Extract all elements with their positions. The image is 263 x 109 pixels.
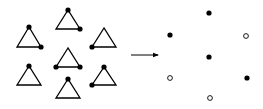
triangle-outline	[92, 28, 116, 47]
triangle-outline	[17, 66, 41, 85]
vertex-dot-apex	[65, 7, 70, 12]
triangle-t5	[17, 63, 41, 85]
triangle-t1	[17, 24, 44, 49]
vertex-dot-right	[77, 26, 82, 31]
vertex-dot-apex	[101, 64, 106, 69]
vertex-dot-left	[53, 64, 58, 69]
vertex-dot-apex	[65, 76, 70, 81]
triangle-t2	[56, 7, 83, 31]
filled-node-n1	[167, 32, 172, 37]
triangles-to-nodes-diagram	[0, 0, 263, 109]
triangle-t4	[53, 48, 82, 70]
filled-node-n2	[206, 10, 211, 15]
diagram-canvas	[0, 0, 263, 109]
triangle-t3	[89, 28, 116, 50]
filled-node-n4	[206, 54, 211, 59]
triangle-t6	[56, 76, 80, 98]
open-node-n5	[168, 76, 173, 81]
triangles-group	[17, 7, 116, 98]
triangle-outline	[17, 27, 41, 47]
triangle-outline	[56, 48, 80, 67]
open-node-n6	[208, 96, 213, 101]
triangle-outline	[56, 10, 80, 29]
vertex-dot-right	[38, 44, 43, 49]
vertex-dot-left	[89, 82, 94, 87]
vertex-dot-apex	[26, 24, 31, 29]
vertex-dot-left	[89, 44, 94, 49]
filled-node-n7	[244, 75, 249, 80]
triangle-outline	[56, 79, 80, 98]
triangle-outline	[92, 67, 116, 85]
vertex-dot-right	[77, 64, 82, 69]
vertex-dot-apex	[26, 63, 31, 68]
nodes-group	[167, 10, 249, 100]
triangle-t7	[89, 64, 116, 87]
open-node-n3	[244, 34, 249, 39]
